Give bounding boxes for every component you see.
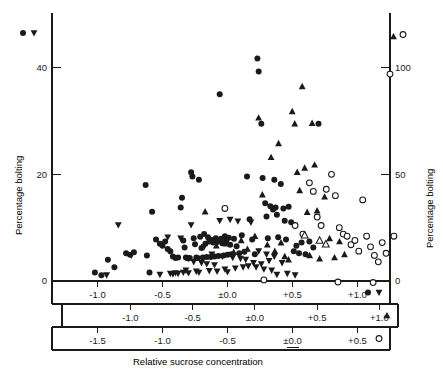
data-point-up-triangle <box>296 187 303 193</box>
data-point-up-triangle <box>314 207 321 213</box>
data-point-filled-circle <box>196 177 202 183</box>
data-point-down-triangle <box>268 268 275 274</box>
x-tick-label: +0.5 <box>283 289 302 300</box>
data-point-filled-circle <box>271 177 277 183</box>
data-point-open-circle <box>344 233 350 239</box>
data-point-up-triangle <box>255 114 262 120</box>
data-point-filled-circle <box>262 200 268 206</box>
data-point-down-triangle <box>156 272 163 278</box>
data-point-down-triangle <box>203 261 210 267</box>
data-point-filled-circle <box>310 244 316 250</box>
data-point-filled-circle <box>147 269 153 275</box>
data-point-open-circle <box>379 240 385 246</box>
data-point-up-triangle <box>321 193 328 199</box>
data-point-up-triangle <box>268 154 275 160</box>
data-point-filled-circle <box>105 257 111 263</box>
data-point-filled-circle <box>143 182 149 188</box>
x-tick-label: -0.5 <box>219 335 235 346</box>
x-tick-label: -1.5 <box>89 335 105 346</box>
legend-open-circle-icon <box>400 32 406 38</box>
data-point-filled-circle <box>275 234 281 240</box>
data-point-open-circle <box>333 193 339 199</box>
data-point-open-circle <box>323 186 329 192</box>
data-point-open-up-triangle <box>316 237 323 243</box>
stray-markers <box>335 279 376 285</box>
open-triangle-points <box>301 232 329 247</box>
legend-filled-circle-icon <box>365 290 371 296</box>
legend-filled-circle-icon <box>20 30 26 36</box>
legend-band-3 <box>376 336 382 342</box>
data-point-open-circle <box>318 223 324 229</box>
x-tick-label: +0.5 <box>308 312 327 323</box>
data-point-open-circle <box>356 248 362 254</box>
y-tick-label-right: 0 <box>395 275 400 286</box>
data-point-down-triangle <box>214 269 221 275</box>
data-point-down-triangle <box>216 218 223 224</box>
data-point-open-circle <box>391 233 397 239</box>
data-point-filled-circle <box>231 236 237 242</box>
data-point-filled-circle <box>291 248 297 254</box>
data-point-filled-circle <box>293 243 299 249</box>
data-point-down-triangle <box>234 218 241 224</box>
data-point-filled-circle <box>179 195 185 201</box>
data-point-filled-circle <box>191 235 197 241</box>
x-tick-label: ±0.0 <box>246 312 264 323</box>
data-point-up-triangle <box>294 169 301 175</box>
data-point-up-triangle <box>309 120 316 126</box>
data-point-down-triangle <box>292 272 299 278</box>
data-point-up-triangle <box>341 251 348 257</box>
data-point-up-triangle <box>244 245 251 251</box>
legend-open-circle-icon <box>376 336 382 342</box>
data-point-up-triangle <box>281 253 288 259</box>
legend-down-triangle-icon <box>376 290 383 296</box>
figure-root: Percentage bolting Percentage bolting Re… <box>0 0 443 379</box>
data-point-filled-circle <box>111 264 117 270</box>
data-point-filled-circle <box>256 68 262 74</box>
plot-canvas: 02040050100-1.0-0.5±0.0+0.5+1.0-1.0-0.5±… <box>0 0 443 379</box>
x-tick-label: ±0.0 <box>218 289 236 300</box>
data-point-open-circle <box>335 279 341 285</box>
data-point-filled-circle <box>178 204 184 210</box>
x-tick-label: ±0.0 <box>283 335 301 346</box>
data-point-down-triangle <box>115 222 122 228</box>
data-point-down-triangle <box>188 222 195 228</box>
data-point-filled-circle <box>316 121 322 127</box>
data-point-open-circle <box>368 244 374 250</box>
data-point-up-triangle <box>251 233 258 239</box>
data-point-filled-circle <box>265 235 271 241</box>
data-point-open-circle <box>372 253 378 259</box>
data-point-open-circle <box>383 250 389 256</box>
data-point-filled-circle <box>264 213 270 219</box>
x-tick-label: -1.0 <box>122 312 138 323</box>
data-point-filled-circle <box>182 244 188 250</box>
data-point-filled-circle <box>296 250 302 256</box>
data-point-filled-circle <box>92 269 98 275</box>
data-point-open-circle <box>375 259 381 265</box>
data-point-down-triangle <box>247 220 254 226</box>
data-point-filled-circle <box>192 241 198 247</box>
x-axis-band-3: -1.5-1.0-0.5±0.0+0.5 <box>52 327 390 350</box>
data-point-down-triangle <box>242 257 249 263</box>
data-point-filled-circle <box>167 248 173 254</box>
data-point-filled-circle <box>260 175 266 181</box>
x-tick-label: -0.5 <box>184 312 200 323</box>
y-tick-label-left: 20 <box>36 169 47 180</box>
data-point-up-triangle <box>326 235 333 241</box>
data-point-down-triangle <box>273 272 280 278</box>
x-tick-label: -0.5 <box>154 289 170 300</box>
data-point-down-triangle <box>284 271 291 277</box>
data-point-filled-circle <box>286 204 292 210</box>
data-point-up-triangle <box>202 208 209 214</box>
data-point-filled-circle <box>278 181 284 187</box>
data-point-open-circle <box>222 206 228 212</box>
y-tick-label-left: 0 <box>42 275 47 286</box>
data-point-open-circle <box>292 223 298 229</box>
x-tick-label: +0.5 <box>348 335 367 346</box>
data-point-down-triangle <box>253 264 260 270</box>
data-point-open-circle <box>314 214 320 220</box>
y-tick-label-right: 50 <box>395 169 406 180</box>
x-tick-label: +1.0 <box>348 289 367 300</box>
data-point-filled-circle <box>98 272 104 278</box>
data-point-filled-circle <box>306 239 312 245</box>
data-point-filled-circle <box>283 236 289 242</box>
